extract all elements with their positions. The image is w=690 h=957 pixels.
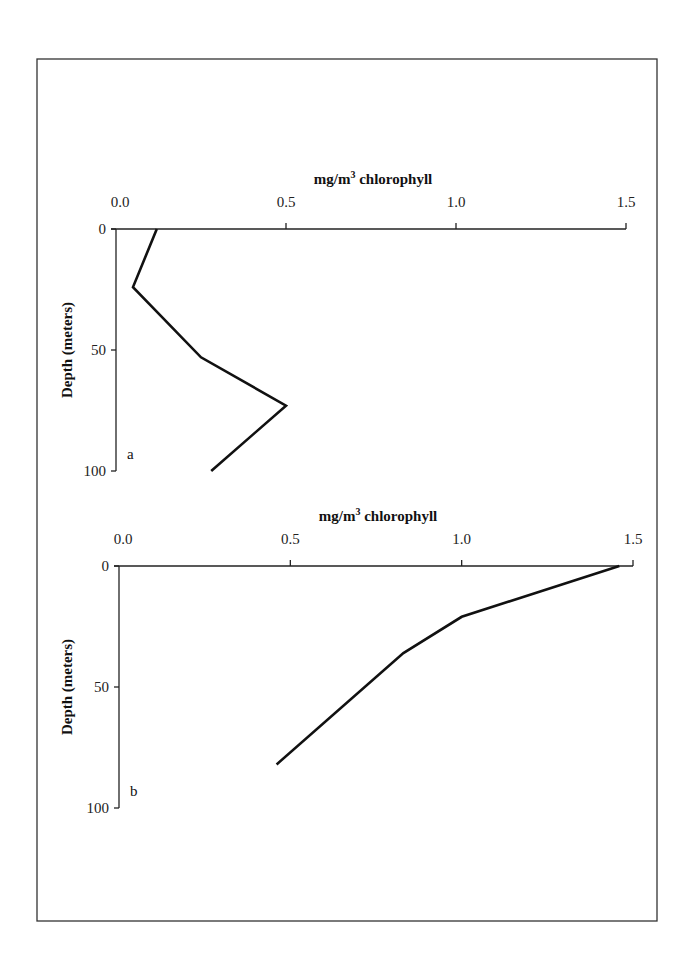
x-tick-label: 0.5 [281, 531, 300, 547]
chlorophyll-profile-line [277, 566, 620, 764]
figure: mg/m3 chlorophyll0.00.51.01.5050100Depth… [0, 0, 690, 957]
x-tick-label: 1.0 [452, 531, 471, 547]
chart-panel-a: mg/m3 chlorophyll0.00.51.01.5050100Depth… [59, 169, 635, 479]
x-tick-label: 0.0 [114, 531, 133, 547]
y-tick-label: 0 [99, 221, 107, 237]
y-tick-label: 100 [84, 463, 107, 479]
x-tick-label: 1.0 [447, 194, 466, 210]
x-tick-label: 0.0 [111, 194, 130, 210]
x-tick-label: 0.5 [277, 194, 296, 210]
y-axis-title: Depth (meters) [59, 639, 76, 735]
y-tick-label: 50 [91, 342, 106, 358]
panel-label: a [127, 446, 134, 462]
x-axis-title: mg/m3 chlorophyll [314, 169, 433, 187]
y-tick-label: 0 [102, 558, 110, 574]
chlorophyll-profile-line [133, 229, 286, 471]
y-axis-title: Depth (meters) [59, 302, 76, 398]
y-tick-label: 50 [94, 679, 109, 695]
y-tick-label: 100 [87, 800, 110, 816]
chart-panel-b: mg/m3 chlorophyll0.00.51.01.5050100Depth… [59, 506, 642, 816]
panel-label: b [130, 783, 138, 799]
x-tick-label: 1.5 [624, 531, 643, 547]
x-tick-label: 1.5 [617, 194, 636, 210]
x-axis-title: mg/m3 chlorophyll [319, 506, 438, 524]
